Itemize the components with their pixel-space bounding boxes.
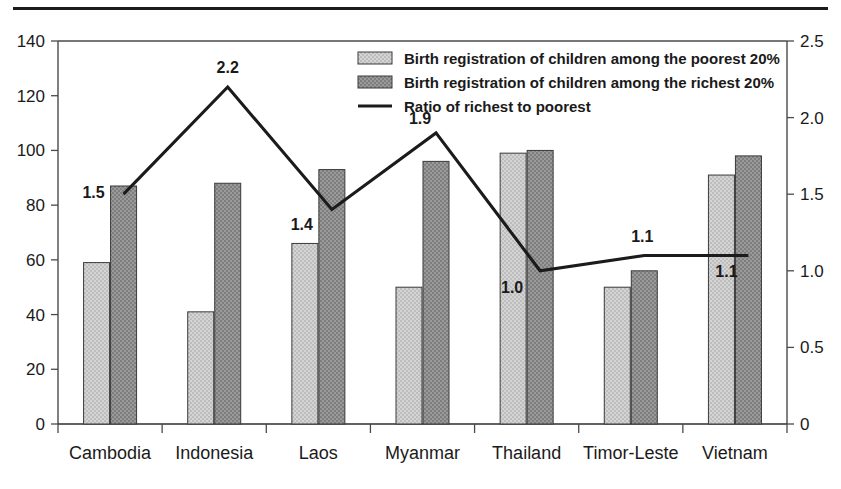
legend-label-0: Birth registration of children among the… [404,50,780,67]
category-label-thailand: Thailand [492,443,561,463]
category-axis [58,424,787,433]
left-axis-tick-label: 60 [26,251,45,270]
ratio-label-thailand: 1.0 [501,279,523,296]
ratio-label-vietnam: 1.1 [715,263,737,280]
bar-vietnam-poorest [708,175,734,424]
category-labels: CambodiaIndonesiaLaosMyanmarThailandTimo… [69,443,768,463]
grouped-bar-line-chart: 020406080100120140 00.51.01.52.02.5 1.52… [0,0,841,489]
legend-marker-swatch-light [358,52,392,64]
right-axis-tick-label: 1.0 [800,262,824,281]
right-axis-tick-label: 1.5 [800,185,824,204]
right-axis-tick-label: 2.5 [800,32,824,51]
left-axis-tick-label: 20 [26,360,45,379]
plot-area: 020406080100120140 00.51.01.52.02.5 1.52… [17,32,824,463]
left-axis-tick-label: 0 [36,415,45,434]
bar-indonesia-richest [215,183,241,424]
right-axis-tick-label: 0.5 [800,338,824,357]
left-axis-tick-label: 120 [17,87,45,106]
bar-indonesia-poorest [188,312,214,424]
category-label-indonesia: Indonesia [175,443,254,463]
chart-figure: 020406080100120140 00.51.01.52.02.5 1.52… [0,0,841,489]
ratio-label-timor-leste: 1.1 [631,228,653,245]
bar-cambodia-richest [111,186,137,424]
bar-myanmar-poorest [396,287,422,424]
bar-thailand-richest [527,150,553,424]
bar-timor-leste-richest [631,271,657,424]
ratio-label-laos: 1.4 [291,216,313,233]
category-label-myanmar: Myanmar [385,443,460,463]
left-axis-tick-label: 140 [17,32,45,51]
category-label-timor-leste: Timor-Leste [583,443,678,463]
legend-label-1: Birth registration of children among the… [404,74,774,91]
right-axis-tick-label: 0 [800,415,809,434]
ratio-point-labels: 1.52.21.41.91.01.11.1 [82,59,737,296]
legend-marker-swatch-dark [358,76,392,88]
bar-timor-leste-poorest [604,287,630,424]
category-label-laos: Laos [299,443,338,463]
bar-vietnam-richest [735,156,761,424]
bar-cambodia-poorest [84,263,110,424]
legend-label-2: Ratio of richest to poorest [404,98,591,115]
chart-legend: Birth registration of children among the… [358,50,780,115]
ratio-label-cambodia: 1.5 [82,184,104,201]
category-label-cambodia: Cambodia [69,443,152,463]
bar-laos-poorest [292,243,318,424]
left-axis-tick-label: 80 [26,196,45,215]
right-axis: 00.51.01.52.02.5 [787,32,824,434]
left-axis-tick-label: 40 [26,306,45,325]
left-axis-tick-label: 100 [17,141,45,160]
right-axis-tick-label: 2.0 [800,109,824,128]
bar-myanmar-richest [423,161,449,424]
bar-group [84,150,762,424]
ratio-label-indonesia: 2.2 [217,59,239,76]
category-label-vietnam: Vietnam [702,443,768,463]
